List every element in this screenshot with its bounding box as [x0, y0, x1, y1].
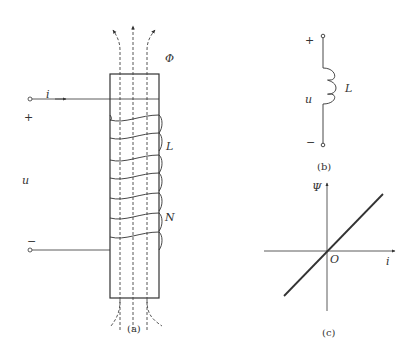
- y-axis-label: Ψ: [312, 181, 322, 194]
- caption-c: (c): [322, 327, 336, 338]
- inductance-label-b: L: [344, 82, 352, 95]
- origin-label: O: [330, 253, 339, 266]
- voltage-label: u: [22, 174, 29, 187]
- terminal-bottom-b: [321, 143, 325, 147]
- caption-a: (a): [127, 323, 141, 334]
- terminal-top-b: [321, 34, 325, 38]
- coil-windings: [110, 115, 162, 250]
- voltage-label-b: u: [305, 93, 312, 106]
- iron-core: [110, 74, 159, 298]
- flux-label: Φ: [165, 52, 174, 65]
- plus-label: +: [24, 111, 33, 124]
- figure-canvas: i + u − Φ L N (a) + u − L (b) Ψ i O (c): [0, 0, 419, 352]
- figure-b-inductor-symbol: [321, 34, 336, 147]
- figure-a-coil-on-core: i + u − Φ L N (a): [22, 26, 175, 334]
- plus-label-b: +: [305, 34, 314, 47]
- x-axis-label: i: [386, 255, 390, 268]
- terminal-top: [28, 97, 32, 101]
- figure-c-flux-linkage-graph: [264, 183, 395, 311]
- characteristic-line: [284, 194, 383, 296]
- current-label: i: [46, 88, 50, 101]
- inductor-coil-icon: [323, 68, 336, 104]
- minus-label: −: [27, 235, 36, 248]
- minus-label-b: −: [306, 136, 315, 149]
- flux-lines: [111, 26, 162, 330]
- terminal-bottom: [28, 248, 32, 252]
- inductance-label: L: [165, 140, 173, 153]
- caption-b: (b): [317, 161, 331, 172]
- turns-label: N: [164, 211, 175, 224]
